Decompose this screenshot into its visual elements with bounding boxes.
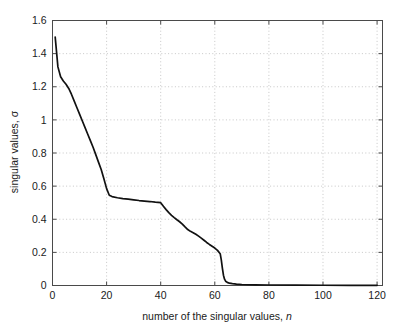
y-axis-tick-labels: 00.20.40.60.811.21.41.6: [32, 14, 47, 291]
y-tick-label: 1: [41, 114, 47, 126]
y-tick-label: 0.2: [32, 246, 47, 258]
x-axis-label: number of the singular values, n: [142, 310, 292, 322]
x-tick-label: 60: [209, 289, 221, 301]
y-tick-label: 1.4: [32, 47, 47, 59]
x-axis-title: number of the singular values, n: [142, 310, 292, 322]
x-tick-label: 100: [314, 289, 332, 301]
singular-values-chart: 020406080100120 00.20.40.60.811.21.41.6 …: [0, 0, 403, 329]
y-tick-label: 1.2: [32, 80, 47, 92]
x-tick-label: 20: [101, 289, 113, 301]
y-tick-label: 0.4: [32, 213, 47, 225]
figure-container: 020406080100120 00.20.40.60.811.21.41.6 …: [0, 0, 403, 329]
y-axis-title: singular values, σ: [8, 110, 20, 193]
y-tick-label: 0.8: [32, 147, 47, 159]
y-axis-label: singular values, σ: [8, 110, 20, 193]
x-tick-label: 120: [368, 289, 386, 301]
plot-background: [0, 0, 403, 329]
y-tick-label: 1.6: [32, 14, 47, 26]
y-tick-label: 0: [41, 279, 47, 291]
x-tick-label: 0: [50, 289, 56, 301]
y-tick-label: 0.6: [32, 180, 47, 192]
x-tick-label: 40: [155, 289, 167, 301]
x-tick-label: 80: [263, 289, 275, 301]
